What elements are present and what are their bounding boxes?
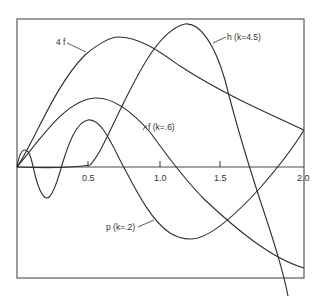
curve-4f: [17, 37, 304, 167]
label-h: h (k=4.5): [227, 32, 261, 42]
x-tick-label-2.0: 2.0: [297, 173, 310, 183]
leader-4f: [67, 43, 86, 52]
curve-h: [17, 24, 288, 296]
x-tick-label-1.5: 1.5: [214, 173, 227, 183]
x-tick-label-0.5: 0.5: [82, 173, 95, 183]
label-f: f (k=.6): [148, 122, 175, 132]
leader-h: [213, 37, 226, 43]
label-4f: 4 f: [56, 37, 66, 47]
chart-canvas: 0.5 1.0 1.5 2.0 4 f h (k=4.5) f (k=.6) p…: [0, 0, 323, 296]
leader-p: [138, 220, 154, 227]
x-tick-label-1.0: 1.0: [154, 173, 167, 183]
label-p: p (k=.2): [106, 222, 135, 232]
plot-frame: [17, 19, 304, 278]
